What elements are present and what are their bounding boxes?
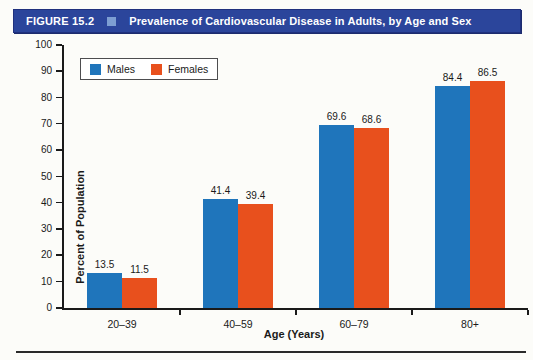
figure-header: FIGURE 15.2 Prevalence of Cardiovascular…	[13, 9, 521, 33]
legend-swatch-icon	[151, 64, 162, 75]
bar-females-60-79: 68.6	[354, 128, 389, 308]
y-tick-mark	[56, 254, 62, 256]
x-axis-tick	[527, 310, 529, 315]
bar-value-label: 86.5	[478, 67, 497, 78]
legend-item-males: Males	[90, 63, 135, 75]
bar-pair: 13.511.5	[87, 45, 157, 308]
bar-group: 13.511.520–39	[64, 45, 180, 308]
y-tick-label: 50	[18, 171, 52, 182]
bar-group: 69.668.660–79	[296, 45, 412, 308]
y-tick-mark	[56, 44, 62, 46]
y-tick-label: 10	[18, 276, 52, 287]
y-tick-label: 40	[18, 197, 52, 208]
bar-males-20-39: 13.5	[87, 273, 122, 309]
bottom-rule	[16, 351, 526, 353]
legend-label: Males	[107, 63, 135, 75]
figure-number: FIGURE 15.2	[26, 15, 94, 27]
y-tick-mark	[56, 176, 62, 178]
legend-label: Females	[168, 63, 208, 75]
y-tick-mark	[56, 123, 62, 125]
bar-males-40-59: 41.4	[203, 199, 238, 308]
y-tick-label: 20	[18, 249, 52, 260]
y-tick-mark	[56, 97, 62, 99]
figure-title: Prevalence of Cardiovascular Disease in …	[129, 15, 471, 27]
bar-females-80+: 86.5	[470, 81, 505, 308]
bar-group: 41.439.440–59	[180, 45, 296, 308]
plot-area: Percent of Population MalesFemales 13.51…	[62, 45, 528, 310]
y-tick-mark	[56, 149, 62, 151]
y-tick-label: 90	[18, 65, 52, 76]
bar-females-40-59: 39.4	[238, 204, 273, 308]
bar-value-label: 84.4	[443, 72, 462, 83]
x-axis-tick	[411, 310, 413, 315]
figure-page: FIGURE 15.2 Prevalence of Cardiovascular…	[0, 0, 533, 360]
bar-value-label: 11.5	[130, 264, 149, 275]
bar-value-label: 39.4	[246, 190, 265, 201]
bar-value-label: 68.6	[362, 114, 381, 125]
y-tick-mark	[56, 307, 62, 309]
bar-pair: 84.486.5	[435, 45, 505, 308]
y-tick-mark	[56, 70, 62, 72]
bar-pair: 41.439.4	[203, 45, 273, 308]
y-tick-label: 70	[18, 118, 52, 129]
bar-value-label: 13.5	[95, 259, 114, 270]
y-tick-mark	[56, 281, 62, 283]
y-tick-mark	[56, 228, 62, 230]
bar-pair: 69.668.6	[319, 45, 389, 308]
y-tick-mark	[56, 202, 62, 204]
legend: MalesFemales	[80, 58, 218, 80]
bar-group: 84.486.580+	[412, 45, 528, 308]
bar-value-label: 69.6	[327, 111, 346, 122]
y-tick-label: 100	[18, 39, 52, 50]
y-tick-label: 60	[18, 144, 52, 155]
bar-females-20-39: 11.5	[122, 278, 157, 308]
x-axis-title: Age (Years)	[62, 328, 526, 340]
y-tick-label: 30	[18, 223, 52, 234]
legend-item-females: Females	[151, 63, 208, 75]
bar-value-label: 41.4	[211, 185, 230, 196]
legend-swatch-icon	[90, 64, 101, 75]
figure-marker-icon	[107, 17, 116, 26]
x-axis-tick	[295, 310, 297, 315]
x-axis-tick	[179, 310, 181, 315]
y-tick-label: 0	[18, 302, 52, 313]
bar-groups: 13.511.520–3941.439.440–5969.668.660–798…	[64, 45, 528, 308]
y-tick-label: 80	[18, 92, 52, 103]
bar-males-60-79: 69.6	[319, 125, 354, 308]
bar-males-80+: 84.4	[435, 86, 470, 308]
